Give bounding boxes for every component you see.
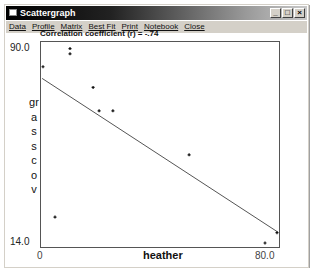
data-points: [42, 47, 279, 244]
regression-line: [42, 78, 278, 232]
data-point: [69, 52, 72, 55]
data-point: [264, 242, 267, 245]
data-point: [69, 47, 72, 50]
data-point: [111, 109, 114, 112]
data-point: [188, 153, 191, 156]
data-point: [42, 65, 45, 68]
data-point: [54, 216, 57, 219]
data-point: [92, 86, 95, 89]
data-point: [98, 109, 101, 112]
scatter-plot: [0, 0, 315, 268]
data-point: [276, 231, 279, 234]
